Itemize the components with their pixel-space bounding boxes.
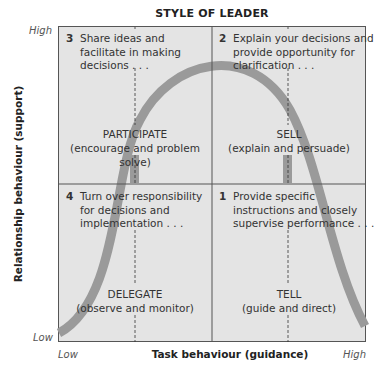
- curve-segment-right: [283, 155, 292, 183]
- style-name: DELEGATE: [58, 287, 212, 301]
- style-name: PARTICIPATE: [58, 127, 212, 141]
- y-axis-high: High: [29, 25, 52, 36]
- style-sell: SELL (explain and persuade): [212, 127, 366, 155]
- desc-line: facilitate in making: [80, 46, 181, 60]
- quadrant-2-number: 2: [219, 32, 226, 44]
- x-axis-label: Task behaviour (guidance): [150, 348, 310, 360]
- desc-line: instructions and closely: [233, 204, 374, 218]
- desc-line: for decisions and: [80, 204, 202, 218]
- quadrant-1-description: Provide specific instructions and closel…: [233, 190, 374, 231]
- style-description: (guide and direct): [212, 301, 366, 315]
- style-participate: PARTICIPATE (encourage and problem solve…: [58, 127, 212, 169]
- desc-line: clarification . . .: [233, 59, 374, 73]
- desc-line: Explain your decisions and: [233, 32, 374, 46]
- desc-line: provide opportunity for: [233, 46, 374, 60]
- style-name: SELL: [212, 127, 366, 141]
- quadrant-2-description: Explain your decisions and provide oppor…: [233, 32, 374, 73]
- quadrant-4-description: Turn over responsibility for decisions a…: [80, 190, 202, 231]
- style-description: (encourage and problem solve): [58, 141, 212, 169]
- quadrant-1-number: 1: [219, 190, 226, 202]
- style-delegate: DELEGATE (observe and monitor): [58, 287, 212, 315]
- quadrant-3-number: 3: [66, 32, 73, 44]
- x-axis-low: Low: [58, 349, 78, 360]
- y-axis-label: Relationship behaviour (support): [12, 86, 24, 283]
- style-description: (explain and persuade): [212, 141, 366, 155]
- quadrant-3-description: Share ideas and facilitate in making dec…: [80, 32, 181, 73]
- style-description: (observe and monitor): [58, 301, 212, 315]
- style-tell: TELL (guide and direct): [212, 287, 366, 315]
- desc-line: supervise performance . . .: [233, 217, 374, 231]
- desc-line: implementation . . .: [80, 217, 202, 231]
- x-axis-high: High: [343, 349, 366, 360]
- y-axis-low: Low: [33, 332, 53, 343]
- desc-line: Share ideas and: [80, 32, 181, 46]
- quadrant-4-number: 4: [66, 190, 73, 202]
- desc-line: decisions . . .: [80, 59, 181, 73]
- style-name: TELL: [212, 287, 366, 301]
- desc-line: Turn over responsibility: [80, 190, 202, 204]
- desc-line: Provide specific: [233, 190, 374, 204]
